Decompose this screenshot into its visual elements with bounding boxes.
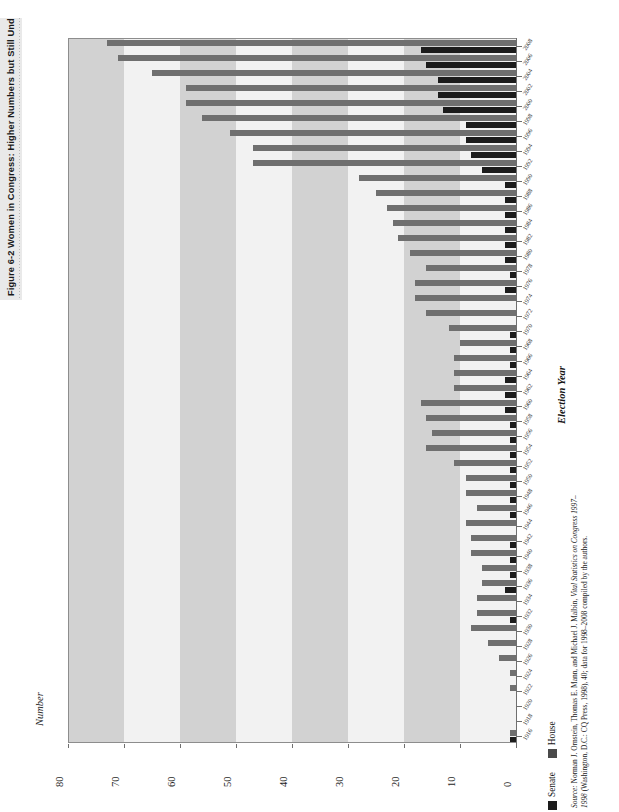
value-axis-tick [516,744,517,748]
bar-house [230,130,516,136]
bar-house [387,205,516,211]
bar-house [186,85,516,91]
legend-swatch-senate [548,801,557,810]
bar-senate [438,77,516,83]
bar-house [426,445,516,451]
bar-senate [505,182,516,188]
bar-senate [426,62,516,68]
value-axis-tick [236,744,237,748]
bar-house [466,475,516,481]
value-axis-tick [460,744,461,748]
value-axis-tick-label: 30 [334,757,345,787]
bar-senate [466,137,516,143]
bar-house [454,460,516,466]
bar-senate [505,287,516,293]
bar-house [454,355,516,361]
page-title: Figure 6-2 Women in Congress: Higher Num… [6,18,16,296]
bar-senate [505,392,516,398]
bar-house [449,325,516,331]
value-axis-tick [404,744,405,748]
value-axis-tick-label: 80 [54,757,65,787]
bar-house [393,220,516,226]
bar-house [253,160,516,166]
background-band [68,39,124,742]
bar-house [482,580,516,586]
legend: SenateHouse [542,670,562,810]
bar-senate [443,107,516,113]
bar-house [466,520,516,526]
bar-house [426,265,516,271]
figure-title-strip: Figure 6-2 Women in Congress: Higher Num… [0,18,22,300]
value-axis-tick [292,744,293,748]
bar-house [118,55,516,61]
bar-house [460,340,516,346]
bar-senate [505,212,516,218]
bar-house [426,310,516,316]
bar-house [359,175,516,181]
value-axis-tick-label: 10 [446,757,457,787]
value-axis-tick-label: 40 [278,757,289,787]
value-axis-tick-label: 0 [502,757,513,787]
value-axis-tick-label: 50 [222,757,233,787]
bar-senate [505,257,516,263]
value-axis-tick [124,744,125,748]
bar-house [107,40,516,46]
value-axis-title: Number [34,656,45,726]
category-axis-title: Election Year [556,330,567,460]
bar-house [477,610,516,616]
background-band [180,39,236,742]
plot-area [68,38,516,743]
bar-senate [505,227,516,233]
bar-house [398,235,516,241]
bar-house [499,655,516,661]
bar-house [186,100,516,106]
bar-house [488,640,516,646]
bar-house [471,535,516,541]
legend-swatch-house [548,749,557,758]
bar-house [471,550,516,556]
bar-senate [482,167,516,173]
value-axis-tick [68,744,69,748]
bar-house [477,595,516,601]
bar-house [253,145,516,151]
bar-house [152,70,516,76]
bar-senate [471,152,516,158]
bar-senate [505,242,516,248]
source-note: Source: Norman J. Ornstein, Thomas E. Ma… [570,490,596,808]
bar-house [410,250,516,256]
source-publication-detail: (Washington, D.C.: CQ Press, 1998), 40; … [580,536,589,793]
value-axis-tick [348,744,349,748]
bar-senate [438,92,516,98]
bar-house [482,565,516,571]
dotted-rule-divider [19,18,20,300]
bar-house [426,415,516,421]
bar-house [477,505,516,511]
bar-house [421,400,516,406]
bar-house [471,625,516,631]
legend-item-house: House [547,721,557,758]
bar-senate [505,197,516,203]
figure-page: Figure 6-2 Women in Congress: Higher Num… [0,0,619,812]
value-axis-tick-label: 70 [110,757,121,787]
bar-house [432,430,516,436]
value-axis-tick-label: 20 [390,757,401,787]
bar-senate [505,587,516,593]
bar-house [415,295,516,301]
bar-house [454,385,516,391]
legend-item-senate: Senate [547,772,557,810]
bar-house [466,490,516,496]
value-axis-tick [180,744,181,748]
value-axis-tick-label: 60 [166,757,177,787]
bar-house [454,370,516,376]
bar-senate [505,377,516,383]
source-authors: Norman J. Ornstein, Thomas E. Mann, and … [570,597,579,786]
source-label: Source: [570,785,579,808]
bar-senate [505,407,516,413]
bar-house [202,115,516,121]
legend-label-house: House [547,721,557,745]
bar-senate [421,47,516,53]
bar-senate [466,122,516,128]
bar-house [376,190,516,196]
legend-label-senate: Senate [547,772,557,797]
bar-house [415,280,516,286]
